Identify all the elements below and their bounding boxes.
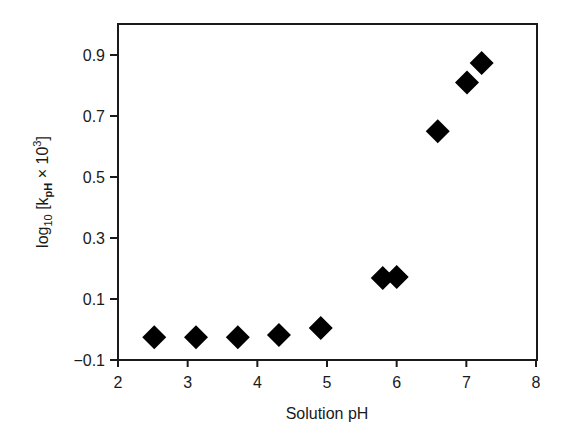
y-axis-title: log10 [kpH × 103] xyxy=(31,136,54,248)
x-axis-title: Solution pH xyxy=(286,405,369,422)
scatter-chart: 2345678 −0.10.10.30.50.70.9 Solution pH … xyxy=(0,0,569,441)
plot-border xyxy=(118,24,537,360)
diamond-marker xyxy=(426,119,450,143)
y-title-log: log xyxy=(34,227,51,248)
y-axis-ticks: −0.10.10.30.50.70.9 xyxy=(73,47,118,369)
y-tick-label: 0.7 xyxy=(83,108,105,125)
data-markers xyxy=(142,51,493,349)
diamond-marker xyxy=(267,323,291,347)
y-tick-label: 0.5 xyxy=(83,169,105,186)
y-tick-label: 0.9 xyxy=(83,47,105,64)
y-title-log-sub: 10 xyxy=(42,214,54,226)
y-tick-label: 0.3 xyxy=(83,230,105,247)
y-title-times: × 10 xyxy=(34,147,51,183)
diamond-marker xyxy=(385,265,409,289)
diamond-marker xyxy=(226,325,250,349)
y-tick-label: 0.1 xyxy=(83,291,105,308)
plot-frame xyxy=(118,24,537,360)
y-title-k-sub: pH xyxy=(42,183,54,198)
x-axis-ticks: 2345678 xyxy=(114,360,541,391)
x-tick-label: 6 xyxy=(392,374,401,391)
y-title-open: [k xyxy=(34,196,51,214)
diamond-marker xyxy=(470,51,494,75)
y-title-close: ] xyxy=(34,136,51,140)
x-tick-label: 4 xyxy=(253,374,262,391)
diamond-marker xyxy=(142,325,166,349)
diamond-marker xyxy=(184,325,208,349)
x-tick-label: 7 xyxy=(462,374,471,391)
diamond-marker xyxy=(309,316,333,340)
diamond-marker xyxy=(455,70,479,94)
y-tick-label: −0.1 xyxy=(73,352,105,369)
x-tick-label: 8 xyxy=(532,374,541,391)
x-tick-label: 5 xyxy=(323,374,332,391)
x-tick-label: 2 xyxy=(114,374,123,391)
x-tick-label: 3 xyxy=(183,374,192,391)
